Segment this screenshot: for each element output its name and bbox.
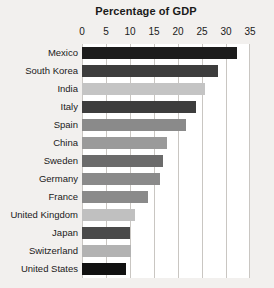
bar-row: Japan [0, 224, 274, 242]
bar [82, 227, 130, 239]
bar [82, 119, 186, 131]
chart-title: Percentage of GDP [0, 5, 274, 17]
category-label: Germany [0, 170, 78, 188]
bar [82, 137, 167, 149]
bar [82, 101, 196, 113]
category-label: India [0, 80, 78, 98]
x-tick-label: 35 [244, 26, 255, 37]
bar-row: China [0, 134, 274, 152]
category-label: Sweden [0, 152, 78, 170]
bar-row: India [0, 80, 274, 98]
bar [82, 209, 135, 221]
category-label: Italy [0, 98, 78, 116]
category-label: Japan [0, 224, 78, 242]
bar [82, 155, 163, 167]
bar [82, 173, 160, 185]
x-axis-tick-labels: 05101520253035 [82, 26, 250, 42]
category-label: Spain [0, 116, 78, 134]
bar-row: United States [0, 260, 274, 278]
category-label: Switzerland [0, 242, 78, 260]
x-tick-label: 10 [124, 26, 135, 37]
category-label: South Korea [0, 62, 78, 80]
bar-row: Mexico [0, 44, 274, 62]
x-tick-label: 25 [196, 26, 207, 37]
bar [82, 191, 148, 203]
x-tick-label: 30 [220, 26, 231, 37]
category-label: China [0, 134, 78, 152]
bar [82, 47, 237, 59]
bar [82, 65, 218, 77]
bar-chart: Percentage of GDP 05101520253035 MexicoS… [0, 0, 274, 288]
bar-row: South Korea [0, 62, 274, 80]
category-label: Mexico [0, 44, 78, 62]
bar-row: Germany [0, 170, 274, 188]
bar-row: United Kingdom [0, 206, 274, 224]
category-label: France [0, 188, 78, 206]
bar-rows: MexicoSouth KoreaIndiaItalySpainChinaSwe… [0, 44, 274, 278]
category-label: United States [0, 260, 78, 278]
bar-row: France [0, 188, 274, 206]
bar [82, 83, 205, 95]
x-tick-label: 20 [172, 26, 183, 37]
x-tick-label: 5 [103, 26, 109, 37]
bar [82, 263, 126, 275]
x-tick-label: 15 [148, 26, 159, 37]
bar-row: Italy [0, 98, 274, 116]
x-tick-label: 0 [79, 26, 85, 37]
bar [82, 245, 131, 257]
category-label: United Kingdom [0, 206, 78, 224]
bar-row: Spain [0, 116, 274, 134]
bar-row: Sweden [0, 152, 274, 170]
bar-row: Switzerland [0, 242, 274, 260]
